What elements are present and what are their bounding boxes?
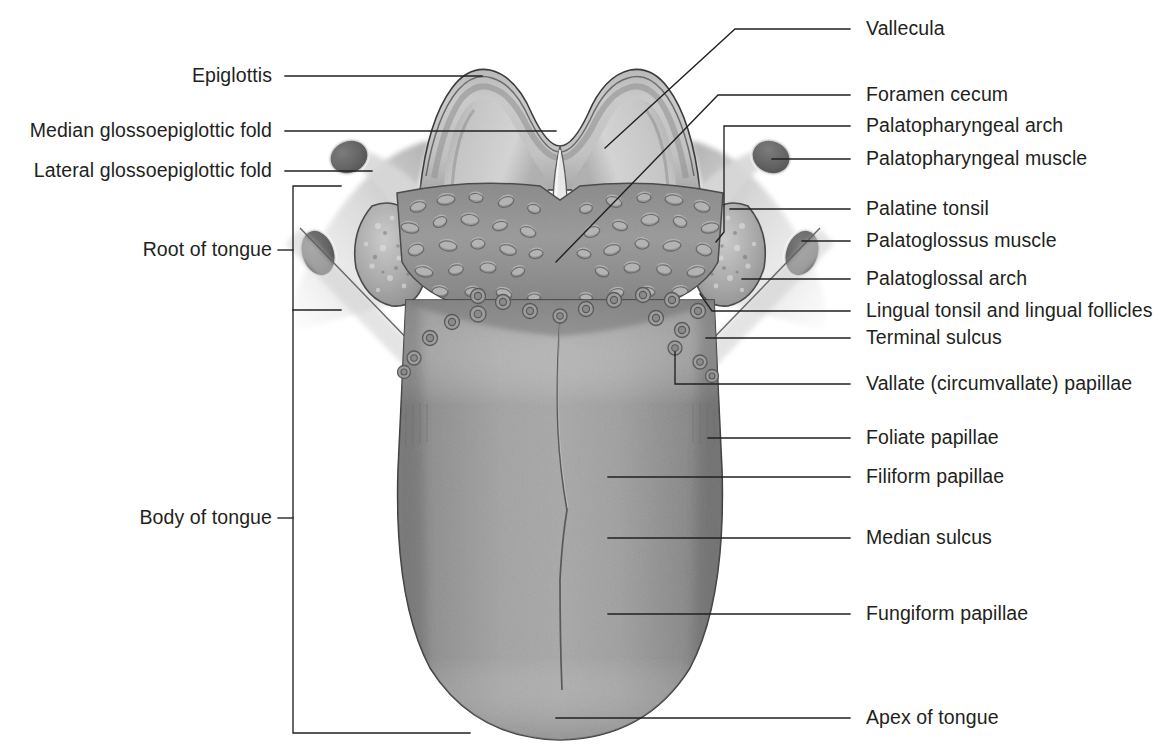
label-palatoglossus-muscle: Palatoglossus muscle (866, 231, 1057, 251)
label-palatopharyngeal-arch: Palatopharyngeal arch (866, 116, 1063, 136)
label-apex-of-tongue: Apex of tongue (866, 708, 999, 728)
label-palatine-tonsil: Palatine tonsil (866, 199, 989, 219)
label-vallecula: Vallecula (866, 19, 945, 39)
label-root-of-tongue: Root of tongue (143, 240, 272, 260)
label-foliate-papillae: Foliate papillae (866, 428, 999, 448)
label-body-of-tongue: Body of tongue (139, 508, 272, 528)
label-palatoglossal-arch: Palatoglossal arch (866, 269, 1027, 289)
label-median-glossoepiglottic-fold: Median glossoepiglottic fold (30, 121, 272, 141)
label-vallate-papillae: Vallate (circumvallate) papillae (866, 374, 1132, 394)
tongue-body-shape (390, 286, 735, 750)
label-fungiform-papillae: Fungiform papillae (866, 604, 1028, 624)
illustration-body (286, 60, 834, 750)
label-palatopharyngeal-muscle: Palatopharyngeal muscle (866, 149, 1087, 169)
label-lateral-glossoepiglottic-fold: Lateral glossoepiglottic fold (34, 161, 272, 181)
label-filiform-papillae: Filiform papillae (866, 467, 1004, 487)
anatomy-figure-page: Epiglottis Median glossoepiglottic fold … (0, 0, 1176, 753)
label-epiglottis: Epiglottis (192, 66, 272, 86)
label-lingual-tonsil: Lingual tonsil and lingual follicles (866, 301, 1153, 321)
label-foramen-cecum: Foramen cecum (866, 85, 1008, 105)
label-terminal-sulcus: Terminal sulcus (866, 328, 1002, 348)
label-median-sulcus: Median sulcus (866, 528, 992, 548)
